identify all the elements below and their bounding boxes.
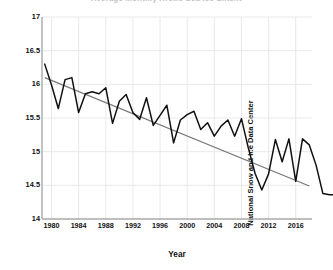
- x-tick-label: 1988: [91, 222, 121, 229]
- x-tick-label: 1996: [145, 222, 175, 229]
- chart-figure: Average Monthly Arctic Sea Ice Extent Ex…: [0, 0, 333, 270]
- x-tick-label: 2008: [226, 222, 256, 229]
- y-tick-label: 17: [18, 13, 40, 20]
- chart-title: Average Monthly Arctic Sea Ice Extent: [0, 0, 333, 3]
- y-axis-tick-labels: 1716.51615.51514.514: [16, 17, 40, 219]
- y-tick-label: 14.5: [18, 181, 40, 188]
- x-tick-label: 2000: [172, 222, 202, 229]
- plot-svg: [42, 17, 312, 219]
- x-tick-label: 2016: [281, 222, 311, 229]
- plot-area: [42, 17, 312, 219]
- x-tick-label: 2012: [254, 222, 284, 229]
- x-tick-label: 1980: [36, 222, 66, 229]
- x-tick-label: 2004: [199, 222, 229, 229]
- x-axis-title: Year: [42, 250, 312, 259]
- y-tick-label: 15: [18, 148, 40, 155]
- y-tick-label: 15.5: [18, 114, 40, 121]
- y-tick-label: 16.5: [18, 47, 40, 54]
- y-tick-label: 16: [18, 80, 40, 87]
- x-axis-tick-labels: 1980198419881992199620002004200820122016: [42, 222, 312, 234]
- gridlines: [42, 17, 312, 219]
- x-tick-label: 1992: [118, 222, 148, 229]
- x-tick-label: 1984: [64, 222, 94, 229]
